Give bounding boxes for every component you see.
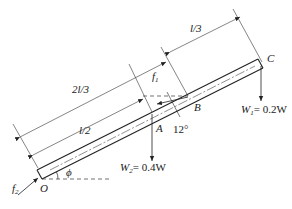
- two-l-third-label: 2l/3: [72, 83, 90, 95]
- phi-label: ϕ: [66, 166, 72, 178]
- two-l-third-dimension: [20, 62, 166, 137]
- f2-force-arrow: [18, 178, 38, 195]
- l-third-dimension: [170, 17, 240, 52]
- beam-diagram: ϕ O f2 C W1= 0.2W A W2= 0.4W B 12° f1 l/…: [0, 0, 292, 209]
- point-o-label: O: [40, 182, 48, 194]
- l-third-label: l/3: [190, 22, 202, 34]
- l-half-label: l/2: [79, 124, 91, 136]
- f2-label: f2: [12, 182, 19, 196]
- point-a-label: A: [155, 122, 163, 134]
- phi-angle-arc: [57, 172, 59, 179]
- f1-label: f1: [152, 70, 159, 84]
- w2-label: W2= 0.4W: [120, 161, 166, 175]
- point-b-label: B: [194, 101, 201, 113]
- w1-label: W1= 0.2W: [241, 103, 287, 117]
- b-angle-label: 12°: [173, 123, 188, 135]
- extension-lines: [13, 9, 262, 168]
- point-c-label: C: [267, 52, 275, 64]
